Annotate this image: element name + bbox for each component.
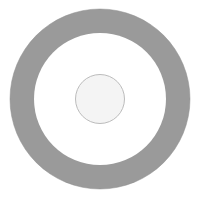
center-circle (76, 75, 125, 124)
concentric-ring-figure: Concentric ring diagram (0, 0, 201, 199)
figure-canvas: Concentric ring diagram (0, 0, 201, 199)
